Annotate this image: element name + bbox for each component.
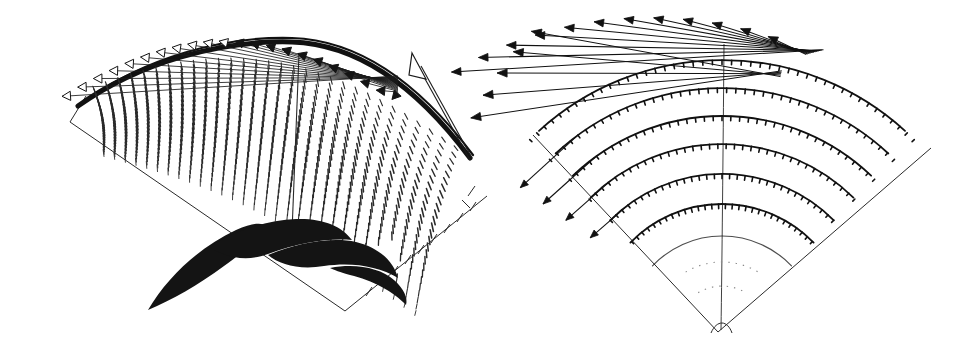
arc-tick-glyph bbox=[689, 90, 690, 95]
vector-glyph bbox=[373, 197, 374, 206]
vector-glyph bbox=[329, 163, 330, 173]
vector-glyph bbox=[136, 158, 137, 165]
vector-glyph bbox=[362, 189, 363, 198]
vector-glyph bbox=[352, 169, 353, 179]
arc-tick-glyph bbox=[743, 145, 744, 150]
arc-tick-glyph bbox=[655, 68, 656, 72]
vector-glyph bbox=[332, 144, 333, 154]
vector-glyph bbox=[320, 138, 321, 148]
vector-glyph bbox=[294, 66, 295, 74]
arc-tick-glyph bbox=[662, 96, 663, 100]
vector-glyph bbox=[405, 227, 406, 235]
arc-tick-glyph bbox=[774, 123, 775, 127]
arc-tick-glyph bbox=[701, 145, 702, 150]
arc-tick-glyph bbox=[691, 208, 692, 212]
arc-tick-glyph bbox=[680, 92, 681, 97]
vector-glyph bbox=[372, 203, 373, 212]
arc-tick-glyph bbox=[671, 93, 672, 97]
vector-glyph bbox=[292, 77, 293, 86]
vector-glyph bbox=[265, 209, 266, 216]
arc-tick-glyph bbox=[691, 177, 692, 181]
arc-tick-glyph bbox=[760, 63, 761, 68]
vector-glyph bbox=[427, 243, 428, 251]
vector-glyph bbox=[321, 132, 322, 142]
arc-tick-glyph bbox=[759, 148, 760, 152]
arc-tick-glyph bbox=[684, 148, 685, 152]
arc-tick-glyph bbox=[754, 90, 755, 95]
vector-glyph bbox=[319, 151, 320, 161]
figure-root bbox=[0, 0, 974, 342]
vector-glyph bbox=[420, 283, 421, 289]
vector-glyph bbox=[293, 71, 294, 79]
vector-glyph bbox=[350, 182, 351, 191]
vector-glyph bbox=[340, 169, 341, 179]
vector-glyph bbox=[290, 89, 291, 98]
vector-glyph bbox=[339, 176, 340, 186]
arc-tick-glyph bbox=[752, 177, 753, 181]
vector-glyph bbox=[366, 237, 367, 245]
vector-glyph bbox=[342, 156, 343, 166]
arc-tick-glyph bbox=[748, 118, 749, 123]
arc-tick-glyph bbox=[737, 175, 738, 180]
arc-tick-glyph bbox=[751, 146, 752, 151]
arc-tick-glyph bbox=[687, 119, 688, 124]
arc-tick-glyph bbox=[751, 62, 752, 67]
arc-tick-glyph bbox=[699, 176, 700, 181]
vector-glyph bbox=[404, 233, 405, 241]
arc-tick-glyph bbox=[684, 179, 685, 183]
arc-tick-glyph bbox=[767, 150, 768, 154]
vector-glyph bbox=[406, 220, 407, 229]
vector-glyph bbox=[146, 161, 147, 168]
vector-glyph bbox=[384, 204, 385, 213]
vector-glyph bbox=[281, 69, 282, 77]
escaping-arrow-shaft bbox=[497, 73, 781, 74]
arc-tick-glyph bbox=[759, 179, 760, 183]
arc-tick-glyph bbox=[788, 68, 789, 72]
figure-canvas bbox=[0, 0, 974, 342]
vector-glyph bbox=[351, 176, 352, 185]
vector-glyph bbox=[393, 225, 394, 233]
arc-tick-glyph bbox=[698, 206, 699, 210]
vector-glyph bbox=[395, 212, 396, 221]
vector-glyph bbox=[275, 215, 276, 222]
arc-tick-glyph bbox=[763, 92, 764, 97]
arc-tick-glyph bbox=[745, 206, 746, 210]
vector-glyph bbox=[394, 219, 395, 228]
vector-glyph bbox=[281, 63, 282, 71]
arc-tick-glyph bbox=[678, 121, 679, 125]
vector-glyph bbox=[331, 150, 332, 160]
arc-tick-glyph bbox=[676, 150, 677, 154]
vector-glyph bbox=[364, 176, 365, 185]
vector-glyph bbox=[374, 190, 375, 199]
vector-glyph bbox=[408, 282, 409, 288]
arc-tick-glyph bbox=[664, 66, 665, 70]
vector-glyph bbox=[330, 156, 331, 166]
arc-tick-glyph bbox=[705, 205, 706, 210]
vector-glyph bbox=[310, 127, 311, 137]
vector-glyph bbox=[416, 235, 417, 243]
arc-tick-glyph bbox=[669, 123, 670, 127]
vector-glyph bbox=[409, 275, 410, 282]
arc-tick-glyph bbox=[779, 66, 780, 70]
vector-glyph bbox=[363, 183, 364, 192]
vector-glyph bbox=[311, 115, 312, 125]
vector-glyph bbox=[301, 98, 302, 107]
vector-glyph bbox=[426, 250, 427, 258]
arc-tick-glyph bbox=[772, 93, 773, 97]
arc-tick-glyph bbox=[674, 64, 675, 68]
vector-glyph bbox=[418, 228, 419, 236]
arc-tick-glyph bbox=[765, 121, 766, 125]
vector-glyph bbox=[280, 74, 281, 83]
arc-tick-glyph bbox=[695, 118, 696, 123]
arc-tick-glyph bbox=[781, 96, 782, 100]
arc-tick-glyph bbox=[739, 205, 740, 210]
vector-glyph bbox=[341, 163, 342, 173]
vector-glyph bbox=[361, 196, 362, 205]
arc-tick-glyph bbox=[745, 176, 746, 181]
arc-tick-glyph bbox=[693, 146, 694, 151]
vector-glyph bbox=[421, 277, 422, 284]
vector-glyph bbox=[322, 126, 323, 136]
arc-tick-glyph bbox=[707, 175, 708, 180]
figure-background bbox=[0, 0, 974, 342]
arc-tick-glyph bbox=[693, 62, 694, 67]
